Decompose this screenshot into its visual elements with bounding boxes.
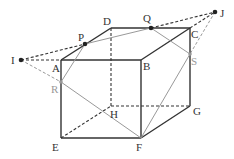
label-c: C [191, 28, 198, 40]
point-j [213, 10, 218, 15]
edge-bc [141, 28, 190, 60]
label-s: S [191, 55, 197, 67]
edge-fg [141, 106, 190, 138]
line-qj [151, 12, 215, 28]
label-b: B [143, 60, 150, 72]
points-gray [59, 52, 192, 84]
point-q [149, 26, 154, 31]
label-p: P [78, 31, 84, 43]
label-i: I [11, 54, 15, 66]
label-r: R [51, 83, 59, 95]
cube-section-diagram: I A P D Q C J B S R H G E F [0, 0, 234, 159]
line-cj [190, 12, 215, 28]
section-pr [61, 44, 85, 82]
label-a: A [52, 62, 60, 74]
label-q: Q [143, 12, 151, 24]
label-h: H [110, 108, 118, 120]
construction-lines-gray [21, 12, 215, 82]
point-r [59, 80, 63, 84]
hidden-edges [61, 28, 190, 138]
label-e: E [52, 141, 59, 153]
label-d: D [103, 15, 111, 27]
label-j: J [220, 7, 225, 19]
section-pq [85, 28, 151, 44]
edge-eh [61, 106, 111, 138]
point-i [19, 58, 24, 63]
label-g: G [193, 105, 201, 117]
section-rf [61, 82, 141, 138]
section-lines [61, 28, 190, 138]
visible-edges [61, 28, 190, 138]
line-ip [21, 44, 85, 60]
label-f: F [136, 141, 142, 153]
